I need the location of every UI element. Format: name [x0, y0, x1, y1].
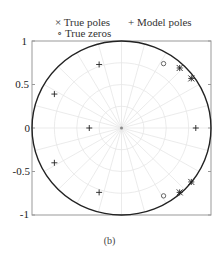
- origin-marker: [120, 127, 123, 130]
- pole-zero-plot: [0, 0, 219, 264]
- figure-caption: (b): [0, 235, 219, 246]
- true-zero-marker: [161, 61, 165, 65]
